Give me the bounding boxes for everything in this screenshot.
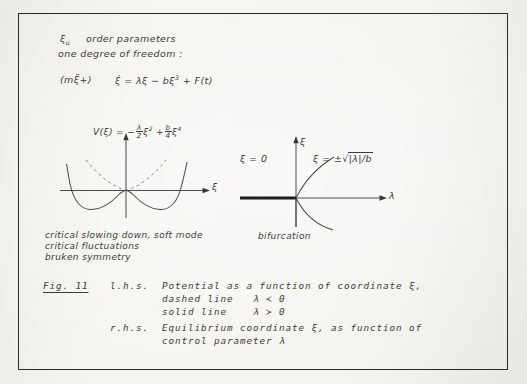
figure-page: ξu order parameters one degree of freedo… [0, 0, 527, 384]
potential-xi-axis-arrowhead [203, 188, 211, 193]
order-parameters-line: ξu order parameters [60, 33, 176, 46]
bifurcation-branch-lower [296, 198, 333, 230]
equation-term-linear: λξ [136, 75, 148, 86]
phenomena-line-0: critical slowing down, soft mode [45, 230, 203, 240]
potential-v-axis-arrowhead [123, 133, 128, 140]
degree-of-freedom-line: one degree of freedom : [58, 48, 183, 59]
caption-lhs-tag: l.h.s. [110, 279, 149, 293]
bifurcation-xi-axis-label: ξ [300, 136, 306, 147]
phenomena-line-1: critical fluctuations [45, 241, 139, 251]
bifurcation-plot [238, 130, 418, 230]
caption-rhs-line-2: control parameter λ [162, 334, 285, 348]
caption-lhs-line-3: solid line λ ≻ 0 [162, 305, 285, 319]
potential-curve-solid-left-tail [67, 164, 71, 184]
bifurcation-lambda-axis-arrowhead [380, 195, 388, 200]
branch-pm-head: ξ = ± [313, 153, 342, 164]
potential-plot [52, 128, 242, 220]
caption-lhs-line-1: Potential as a function of coordinate ξ, [162, 279, 422, 293]
bifurcation-lambda-axis-label: λ [389, 190, 395, 201]
equation-lhs: ξ̇ [115, 75, 121, 86]
phenomena-line-2: bruken symmetry [45, 252, 131, 262]
branch-pm-label: ξ = ±√|λ|/b [313, 153, 373, 164]
equation-term-force: + F(t) [183, 75, 213, 86]
branch-zero-label: ξ = 0 [240, 153, 267, 164]
caption-rhs-tag: r.h.s. [110, 321, 149, 335]
figure-number-label: Fig. 11 [43, 279, 88, 293]
order-parameter-subscript: u [66, 39, 70, 46]
equation-equals: = [124, 75, 132, 86]
equation-term-cubic: − bξ [151, 75, 175, 86]
potential-curve-solid-lambda-positive [70, 162, 187, 210]
bifurcation-xi-axis-arrowhead [293, 136, 298, 143]
caption-rhs-line-1: Equilibrium coordinate ξ, as function of [162, 321, 422, 335]
equation-prefix: (mξ̈+) [60, 74, 92, 85]
branch-pm-radicand: |λ|/b [348, 152, 373, 164]
order-parameters-text: order parameters [86, 33, 176, 44]
potential-xi-axis-label: ξ [212, 181, 218, 192]
bifurcation-caption: bifurcation [258, 231, 311, 241]
equation-cubic-exponent: 3 [175, 74, 179, 81]
caption-lhs-line-2: dashed line λ ≺ 0 [162, 292, 285, 306]
equation-of-motion: ξ̇ = λξ − bξ3 + F(t) [115, 74, 213, 86]
